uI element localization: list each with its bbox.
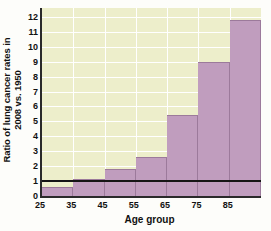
x-axis-title: Age group xyxy=(40,214,259,225)
x-tick-label: 65 xyxy=(160,201,170,210)
x-tick-label: 45 xyxy=(98,201,108,210)
x-tick-label: 75 xyxy=(191,201,201,210)
x-tick-label: 35 xyxy=(66,201,76,210)
x-tick-label: 25 xyxy=(35,201,45,210)
x-tick-label: 55 xyxy=(129,201,139,210)
x-tick-label: 85 xyxy=(223,201,233,210)
x-axis-tick-labels: 25354555657585 xyxy=(0,0,271,231)
chart-figure: Ratio of lung cancer rates in 2008 vs. 1… xyxy=(0,0,271,231)
